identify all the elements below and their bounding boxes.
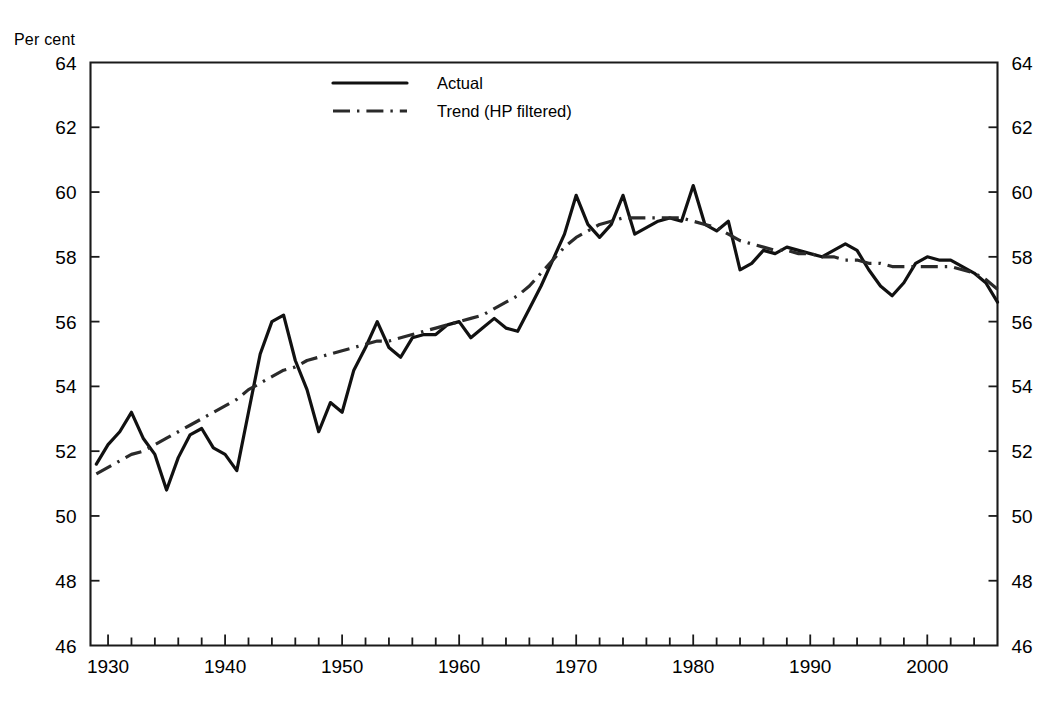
x-axis-tick-label: 1940 [204,656,246,677]
y-axis-tick-label: 46 [1012,636,1033,657]
x-axis-labels: 19301940195019601970198019902000 [87,656,949,677]
y-axis-tick-label: 60 [55,182,76,203]
y-axis-tick-label: 46 [55,636,76,657]
y-axis-labels-right: 46485052545658606264 [1012,53,1034,657]
x-axis-tick-label: 1930 [87,656,129,677]
y-axis-tick-label: 62 [55,117,76,138]
y-axis-tick-label: 54 [1012,376,1034,397]
chart-series [96,186,997,490]
y-axis-tick-label: 64 [1012,53,1034,74]
y-axis-tick-label: 60 [1012,182,1033,203]
y-axis-tick-label: 56 [55,312,76,333]
x-axis-tick-label: 2000 [906,656,948,677]
x-axis-tick-label: 1960 [438,656,480,677]
y-axis-tick-label: 58 [55,247,76,268]
x-axis-tick-label: 1990 [789,656,831,677]
y-axis-tick-label: 48 [1012,571,1033,592]
series-line-actual [96,186,997,490]
y-axis-labels-left: 46485052545658606264 [55,53,77,657]
chart-legend: ActualTrend (HP filtered) [333,74,572,120]
legend-label: Actual [437,74,483,92]
x-axis-tick-label: 1950 [321,656,363,677]
y-axis-tick-label: 52 [1012,441,1033,462]
y-axis-tick-label: 54 [55,376,77,397]
y-axis-tick-label: 52 [55,441,76,462]
y-axis-tick-label: 56 [1012,312,1033,333]
y-axis-tick-label: 50 [1012,506,1033,527]
y-axis-tick-label: 62 [1012,117,1033,138]
x-axis-tick-label: 1970 [555,656,597,677]
chart-tick-marks [91,127,998,645]
line-chart-canvas: 46485052545658606264 4648505254565860626… [0,0,1047,717]
y-axis-unit-label: Per cent [14,31,75,49]
chart-figure: Per cent 46485052545658606264 4648505254… [0,0,1047,717]
y-axis-tick-label: 48 [55,571,76,592]
plot-frame [91,63,998,646]
chart-axes [91,63,998,646]
legend-label: Trend (HP filtered) [437,102,572,120]
x-axis-tick-label: 1980 [672,656,714,677]
y-axis-tick-label: 64 [55,53,77,74]
y-axis-tick-label: 50 [55,506,76,527]
y-axis-tick-label: 58 [1012,247,1033,268]
